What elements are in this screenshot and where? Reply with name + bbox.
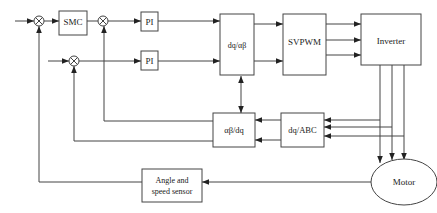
summing-junction-iq	[98, 16, 108, 26]
pi-block-d: PI	[141, 51, 158, 70]
dq-abc-label: dq/ABC	[288, 125, 317, 135]
speed-feedback-line	[39, 26, 142, 182]
svpwm-block: SVPWM	[283, 14, 326, 75]
sensor-label-line2: speed sensor	[152, 187, 193, 196]
angle-speed-sensor-block: Angle and speed sensor	[142, 169, 202, 202]
pi-d-label: PI	[145, 56, 153, 66]
control-block-diagram: SMC PI PI dq/αβ SVPWM Inverter	[0, 0, 437, 213]
sensor-label-line1: Angle and	[155, 176, 188, 185]
motor-label: Motor	[393, 177, 416, 187]
inverter-label: Inverter	[377, 36, 405, 46]
smc-label: SMC	[63, 17, 82, 27]
smc-block: SMC	[59, 11, 87, 35]
alphabeta-dq-block: αβ/dq	[213, 113, 255, 147]
summing-junction-id	[69, 56, 79, 66]
iq-feedback-line	[104, 26, 213, 121]
inverter-block: Inverter	[361, 14, 421, 65]
dq-alphabeta-label: dq/αβ	[228, 41, 246, 50]
pi-block-q: PI	[141, 12, 158, 31]
motor-block: Motor	[371, 159, 437, 205]
pi-q-label: PI	[145, 17, 153, 27]
id-feedback-line	[74, 66, 213, 141]
dq-alphabeta-block: dq/αβ	[220, 14, 254, 75]
svpwm-label: SVPWM	[288, 37, 321, 47]
alphabeta-dq-label: αβ/dq	[224, 125, 244, 135]
dq-abc-block: dq/ABC	[281, 113, 324, 147]
summing-junction-speed	[34, 16, 44, 26]
